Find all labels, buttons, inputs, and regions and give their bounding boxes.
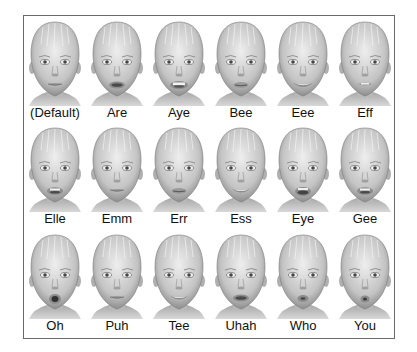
phoneme-label: Uhah: [210, 318, 272, 334]
phoneme-cell: Puh: [86, 231, 148, 337]
face-image: [337, 20, 393, 106]
face-image: [89, 233, 145, 319]
phoneme-cell: Bee: [210, 18, 272, 124]
phoneme-label: Are: [86, 105, 148, 121]
phoneme-cell: Oh: [24, 231, 86, 337]
phoneme-label: Eye: [272, 211, 334, 227]
phoneme-label: Gee: [334, 211, 396, 227]
phoneme-label: Err: [148, 211, 210, 227]
phoneme-cell: Ess: [210, 124, 272, 230]
face-image: [213, 126, 269, 212]
phoneme-cell: (Default): [24, 18, 86, 124]
phoneme-label: Ess: [210, 211, 272, 227]
phoneme-cell: Eye: [272, 124, 334, 230]
face-image: [151, 126, 207, 212]
face-image: [275, 126, 331, 212]
phoneme-label: Who: [272, 318, 334, 334]
face-image: [151, 233, 207, 319]
phoneme-label: Eee: [272, 105, 334, 121]
phoneme-cell: Err: [148, 124, 210, 230]
phoneme-label: Oh: [24, 318, 86, 334]
phoneme-cell: Uhah: [210, 231, 272, 337]
phoneme-cell: Aye: [148, 18, 210, 124]
face-image: [89, 126, 145, 212]
phoneme-label: Puh: [86, 318, 148, 334]
face-image: [337, 126, 393, 212]
phoneme-cell: Who: [272, 231, 334, 337]
face-image: [89, 20, 145, 106]
phoneme-cell: Emm: [86, 124, 148, 230]
phoneme-cell: Eff: [334, 18, 396, 124]
phoneme-label: Aye: [148, 105, 210, 121]
phoneme-label: You: [334, 318, 396, 334]
phoneme-label: Elle: [24, 211, 86, 227]
face-image: [27, 20, 83, 106]
phoneme-label: Emm: [86, 211, 148, 227]
phoneme-label: (Default): [24, 105, 86, 121]
phoneme-cell: Eee: [272, 18, 334, 124]
phoneme-cell: You: [334, 231, 396, 337]
phoneme-cell: Tee: [148, 231, 210, 337]
face-image: [213, 20, 269, 106]
face-image: [275, 233, 331, 319]
phoneme-label: Tee: [148, 318, 210, 334]
face-image: [27, 126, 83, 212]
face-image: [213, 233, 269, 319]
phoneme-cell: Gee: [334, 124, 396, 230]
phoneme-cell: Elle: [24, 124, 86, 230]
face-image: [27, 233, 83, 319]
phoneme-grid-frame: (Default) Are: [23, 15, 395, 339]
phoneme-label: Eff: [334, 105, 396, 121]
phoneme-label: Bee: [210, 105, 272, 121]
face-image: [337, 233, 393, 319]
face-image: [275, 20, 331, 106]
phoneme-cell: Are: [86, 18, 148, 124]
face-image: [151, 20, 207, 106]
